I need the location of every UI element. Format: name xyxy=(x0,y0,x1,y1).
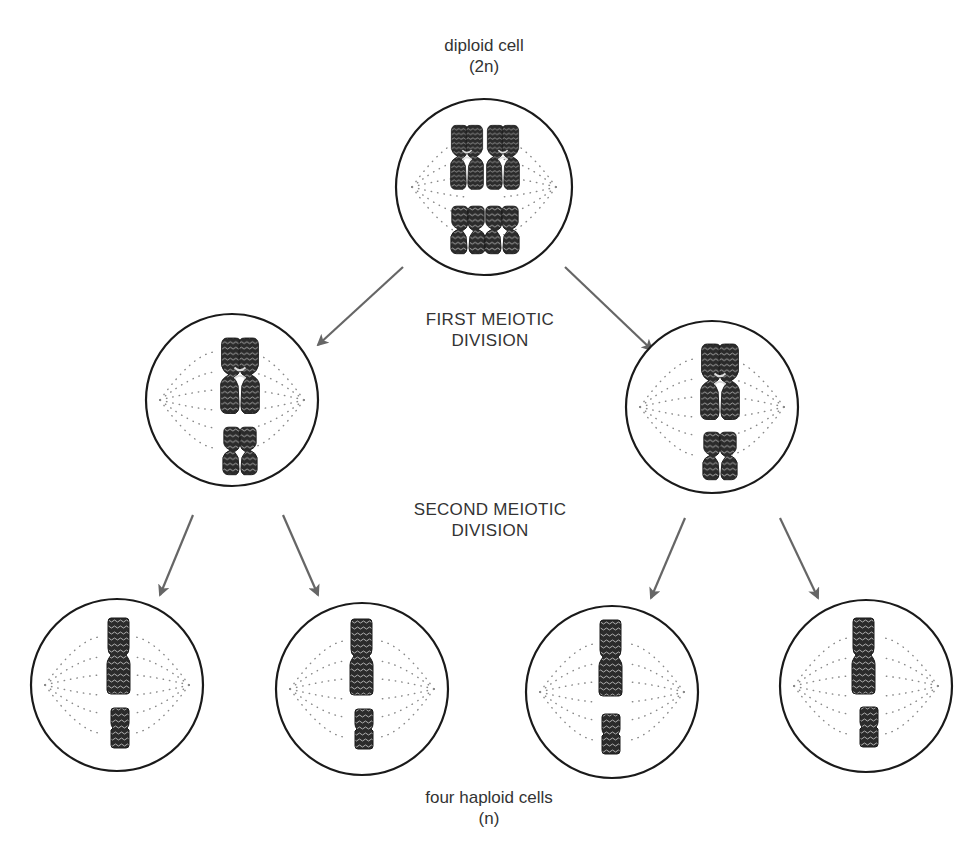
meiosis-diagram xyxy=(0,0,979,868)
diploid-cell xyxy=(396,99,572,275)
first-division-line1: FIRST MEIOTIC xyxy=(380,309,600,330)
arrow-to-haploid-4 xyxy=(780,518,818,598)
second-division-line1: SECOND MEIOTIC xyxy=(380,499,600,520)
haploid-cell-3 xyxy=(526,606,698,778)
diploid-cell-label: diploid cell (2n) xyxy=(384,35,584,78)
haploid-cells-label-line1: four haploid cells xyxy=(384,787,594,808)
diploid-cell-label-line2: (2n) xyxy=(384,56,584,77)
arrow-to-haploid-3 xyxy=(651,518,685,598)
arrow-to-haploid-1 xyxy=(160,515,193,595)
haploid-cells-label: four haploid cells (n) xyxy=(384,787,594,830)
haploid-cells-label-line2: (n) xyxy=(384,808,594,829)
haploid-cell-1 xyxy=(31,599,203,771)
first-meiotic-division-label: FIRST MEIOTIC DIVISION xyxy=(380,309,600,352)
second-division-line2: DIVISION xyxy=(380,520,600,541)
first-division-cell-right xyxy=(626,321,798,493)
haploid-cell-2 xyxy=(276,603,448,775)
diploid-cell-label-line1: diploid cell xyxy=(384,35,584,56)
second-meiotic-division-label: SECOND MEIOTIC DIVISION xyxy=(380,499,600,542)
first-division-line2: DIVISION xyxy=(380,330,600,351)
haploid-cell-4 xyxy=(780,600,952,772)
arrow-to-haploid-2 xyxy=(283,515,318,595)
first-division-cell-left xyxy=(146,314,318,486)
